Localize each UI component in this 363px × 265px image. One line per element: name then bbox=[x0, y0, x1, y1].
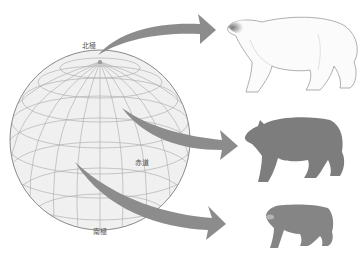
polar-bear-illustration bbox=[228, 17, 358, 92]
globe bbox=[0, 50, 200, 235]
sun-bear-illustration bbox=[266, 204, 333, 248]
arrow-north-to-polar-bear bbox=[98, 14, 216, 55]
equator-label: 赤道 bbox=[135, 160, 149, 167]
north-pole-dot bbox=[98, 60, 102, 64]
south-pole-label: 南極 bbox=[93, 229, 107, 236]
black-bear-illustration bbox=[245, 117, 344, 182]
north-pole-label: 北極 bbox=[82, 43, 96, 50]
bergmann-rule-diagram bbox=[0, 0, 363, 265]
